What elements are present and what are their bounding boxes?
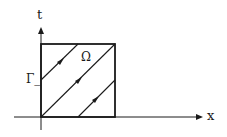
t-axis-label: t <box>37 8 42 21</box>
characteristic-line-3 <box>78 80 115 117</box>
characteristic-line-1 <box>41 44 78 80</box>
t-axis-arrow-icon <box>38 27 44 34</box>
region-omega-label: Ω <box>81 51 91 63</box>
characteristic-line-2 <box>41 44 115 117</box>
x-axis-label: x <box>207 109 214 122</box>
diagram-canvas <box>0 0 227 137</box>
boundary-gamma-minus-label: Γ_ <box>26 73 40 85</box>
x-axis-arrow-icon <box>196 114 203 120</box>
